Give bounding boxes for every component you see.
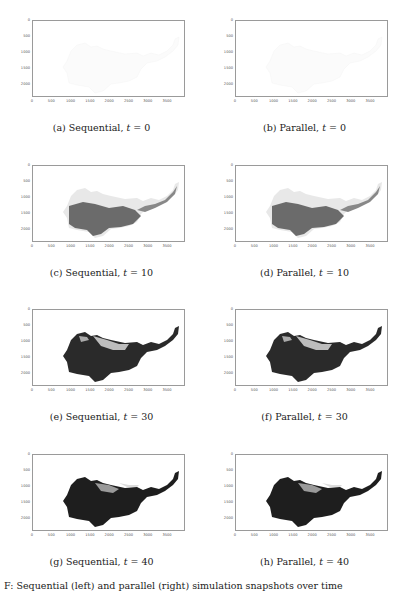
- caption-text: (g) Sequential,: [49, 556, 123, 567]
- y-tick-label: 0: [231, 18, 233, 22]
- y-tick-label: 0: [231, 163, 233, 167]
- x-tick-label: 1500: [288, 533, 297, 537]
- y-tick-label: 1500: [224, 355, 233, 359]
- x-tick-label: 0: [234, 99, 236, 103]
- x-tick-label: 1000: [66, 244, 75, 248]
- y-tick-label: 1000: [224, 484, 233, 488]
- x-tick-label: 3500: [163, 388, 172, 392]
- subfigure-caption: (c) Sequential, t = 10: [0, 267, 203, 278]
- x-tick-label: 3000: [143, 533, 152, 537]
- y-tick-label: 1500: [21, 66, 30, 70]
- x-tick-label: 500: [48, 388, 55, 392]
- x-tick-label: 1500: [288, 99, 297, 103]
- caption-text: = 10: [127, 267, 153, 278]
- x-tick-label: 3500: [366, 388, 375, 392]
- y-tick-label: 1000: [224, 50, 233, 54]
- subfigure-e: 0500100015002000050010001500200025003000…: [0, 299, 203, 444]
- x-tick-label: 500: [251, 244, 258, 248]
- x-tick-label: 2500: [124, 99, 133, 103]
- y-tick-label: 500: [226, 468, 233, 472]
- y-tick-label: 1500: [224, 500, 233, 504]
- x-tick-label: 3500: [366, 244, 375, 248]
- y-tick-label: 0: [28, 452, 30, 456]
- subfigure-b: 0500100015002000050010001500200025003000…: [203, 10, 406, 155]
- plot-image: [235, 309, 388, 386]
- y-tick-label: 1500: [224, 66, 233, 70]
- x-tick-label: 3000: [143, 388, 152, 392]
- y-tick-label: 0: [28, 163, 30, 167]
- x-tick-label: 2500: [327, 244, 336, 248]
- x-tick-label: 500: [48, 244, 55, 248]
- caption-text: = 10: [323, 267, 349, 278]
- y-tick-label: 0: [231, 452, 233, 456]
- subfigure-h: 0500100015002000050010001500200025003000…: [203, 444, 406, 589]
- y-tick-label: 0: [28, 18, 30, 22]
- subfigure-caption: (g) Sequential, t = 40: [0, 556, 203, 567]
- y-tick-label: 1000: [21, 339, 30, 343]
- plot-image: [32, 165, 185, 242]
- caption-text: = 0: [130, 122, 150, 133]
- x-tick-label: 3500: [366, 533, 375, 537]
- y-tick-label: 1000: [21, 484, 30, 488]
- x-tick-label: 3500: [366, 99, 375, 103]
- y-tick-label: 2000: [224, 516, 233, 520]
- x-tick-label: 2000: [308, 388, 317, 392]
- figure-caption: F: Sequential (left) and parallel (right…: [0, 580, 406, 591]
- y-tick-label: 1000: [21, 195, 30, 199]
- y-tick-label: 500: [23, 34, 30, 38]
- x-tick-label: 1000: [269, 533, 278, 537]
- x-tick-label: 500: [251, 99, 258, 103]
- y-tick-label: 2000: [21, 82, 30, 86]
- caption-text: (f) Parallel,: [261, 411, 318, 422]
- y-tick-label: 1000: [224, 195, 233, 199]
- x-tick-label: 3500: [163, 533, 172, 537]
- caption-text: = 40: [323, 556, 349, 567]
- x-tick-label: 500: [48, 533, 55, 537]
- y-tick-label: 2000: [21, 516, 30, 520]
- x-tick-label: 3000: [346, 99, 355, 103]
- x-tick-label: 3500: [163, 99, 172, 103]
- subfigure-caption: (b) Parallel, t = 0: [203, 122, 406, 133]
- subfigure-d: 0500100015002000050010001500200025003000…: [203, 155, 406, 300]
- caption-text: = 40: [127, 556, 153, 567]
- caption-text: (d) Parallel,: [260, 267, 319, 278]
- y-tick-label: 2000: [224, 82, 233, 86]
- x-tick-label: 2000: [105, 533, 114, 537]
- plot-image: [32, 20, 185, 97]
- plot-image: [32, 309, 185, 386]
- x-tick-label: 1500: [288, 244, 297, 248]
- y-tick-label: 2000: [224, 227, 233, 231]
- subfigure-f: 0500100015002000050010001500200025003000…: [203, 299, 406, 444]
- y-tick-label: 1000: [21, 50, 30, 54]
- y-tick-label: 1500: [224, 211, 233, 215]
- subfigure-caption: (f) Parallel, t = 30: [203, 411, 406, 422]
- x-tick-label: 2500: [124, 388, 133, 392]
- subfigure-g: 0500100015002000050010001500200025003000…: [0, 444, 203, 589]
- x-tick-label: 0: [31, 388, 33, 392]
- plot-image: [235, 454, 388, 531]
- x-tick-label: 2500: [124, 244, 133, 248]
- y-tick-label: 500: [226, 179, 233, 183]
- x-tick-label: 1000: [269, 244, 278, 248]
- x-tick-label: 1500: [85, 99, 94, 103]
- x-tick-label: 1000: [269, 99, 278, 103]
- plot-image: [32, 454, 185, 531]
- x-tick-label: 2000: [308, 99, 317, 103]
- x-tick-label: 2000: [308, 533, 317, 537]
- subfigure-a: 0500100015002000050010001500200025003000…: [0, 10, 203, 155]
- subfigure-c: 0500100015002000050010001500200025003000…: [0, 155, 203, 300]
- x-tick-label: 500: [48, 99, 55, 103]
- y-tick-label: 1000: [224, 339, 233, 343]
- x-tick-label: 3000: [346, 388, 355, 392]
- caption-text: = 0: [326, 122, 346, 133]
- x-tick-label: 0: [234, 533, 236, 537]
- subfigure-caption: (e) Sequential, t = 30: [0, 411, 203, 422]
- y-tick-label: 500: [226, 323, 233, 327]
- x-tick-label: 500: [251, 533, 258, 537]
- x-tick-label: 1000: [66, 533, 75, 537]
- y-tick-label: 500: [23, 468, 30, 472]
- y-tick-label: 1500: [21, 500, 30, 504]
- y-tick-label: 0: [28, 307, 30, 311]
- x-tick-label: 0: [31, 244, 33, 248]
- caption-text: = 30: [127, 411, 153, 422]
